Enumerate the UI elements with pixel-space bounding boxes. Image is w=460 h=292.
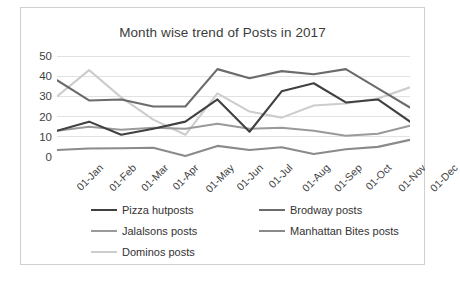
x-axis-tick-label: 01-Feb	[106, 161, 138, 193]
x-axis-tick-label: 01-Mar	[139, 161, 171, 193]
chart-container: Month wise trend of Posts in 2017 010203…	[20, 7, 425, 265]
x-axis-tick-label: 01-Sep	[331, 161, 363, 193]
y-axis-tick-label: 50	[39, 50, 52, 62]
legend-color-swatch	[91, 251, 117, 254]
legend-item[interactable]: Dominos posts	[91, 246, 195, 258]
x-axis-tick-label: 01-Jun	[234, 161, 265, 192]
legend-item[interactable]: Brodway posts	[259, 204, 362, 216]
y-axis-tick-label: 0	[46, 151, 52, 163]
legend-color-swatch	[259, 230, 285, 233]
chart-legend: Pizza hutpostsBrodway postsJalalsons pos…	[91, 204, 411, 262]
x-axis-tick-label: 01-Aug	[299, 161, 331, 193]
legend-color-swatch	[259, 209, 285, 212]
x-axis-tick-label: 01-Oct	[363, 161, 394, 192]
chart-plot-svg	[57, 56, 410, 157]
series-line	[57, 140, 410, 156]
x-axis-tick-labels: 01-Jan01-Feb01-Mar01-Apr01-May01-Jun01-J…	[57, 160, 410, 204]
chart-title: Month wise trend of Posts in 2017	[21, 25, 424, 40]
x-axis-tick-label: 01-Jul	[265, 161, 294, 190]
legend-label: Brodway posts	[290, 204, 362, 216]
x-axis-tick-label: 01-Jan	[74, 161, 105, 192]
legend-item[interactable]: Pizza hutposts	[91, 204, 194, 216]
series-line	[57, 70, 410, 135]
legend-label: Dominos posts	[122, 246, 195, 258]
legend-label: Pizza hutposts	[122, 204, 194, 216]
legend-color-swatch	[91, 209, 117, 212]
legend-item[interactable]: Jalalsons posts	[91, 225, 197, 237]
x-axis-tick-label: 01-May	[203, 161, 236, 194]
legend-item[interactable]: Manhattan Bites posts	[259, 225, 399, 237]
x-axis-tick-label: 01-Dec	[428, 161, 460, 193]
legend-color-swatch	[91, 230, 117, 233]
x-axis-tick-label: 01-Nov	[395, 161, 427, 193]
x-axis-tick-label: 01-Apr	[170, 161, 201, 192]
y-axis-tick-label: 10	[39, 131, 52, 143]
legend-label: Jalalsons posts	[122, 225, 197, 237]
y-axis-tick-label: 20	[39, 111, 52, 123]
y-axis-tick-label: 40	[39, 70, 52, 82]
y-axis-tick-label: 30	[39, 90, 52, 102]
legend-label: Manhattan Bites posts	[290, 225, 399, 237]
plot-area: 01020304050	[57, 56, 410, 157]
